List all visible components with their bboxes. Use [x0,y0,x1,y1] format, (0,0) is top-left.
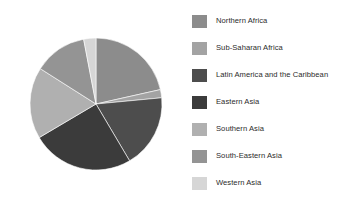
legend-swatch-icon [192,42,207,55]
legend-swatch-icon [192,69,207,82]
legend-label: Southern Asia [216,125,264,133]
legend-label: Northern Africa [216,17,267,25]
legend-label: Western Asia [216,179,261,187]
chart-legend: Northern AfricaSub-Saharan AfricaLatin A… [192,14,356,204]
legend-label: Latin America and the Caribbean [216,71,328,79]
pie-svg [0,0,190,212]
legend-label: Eastern Asia [216,98,259,106]
legend-swatch-icon [192,150,207,163]
legend-swatch-icon [192,15,207,28]
legend-item[interactable]: Eastern Asia [192,95,259,109]
legend-label: Sub-Saharan Africa [216,44,283,52]
legend-item[interactable]: Sub-Saharan Africa [192,41,283,55]
legend-item[interactable]: South-Eastern Asia [192,149,282,163]
legend-item[interactable]: Western Asia [192,176,261,190]
pie-plot-area [0,0,190,212]
legend-swatch-icon [192,123,207,136]
pie-slice-group [30,38,162,170]
legend-swatch-icon [192,177,207,190]
legend-label: South-Eastern Asia [216,152,282,160]
legend-item[interactable]: Northern Africa [192,14,267,28]
legend-item[interactable]: Southern Asia [192,122,264,136]
legend-swatch-icon [192,96,207,109]
legend-item[interactable]: Latin America and the Caribbean [192,68,328,82]
pie-chart-figure: Northern AfricaSub-Saharan AfricaLatin A… [0,0,358,212]
